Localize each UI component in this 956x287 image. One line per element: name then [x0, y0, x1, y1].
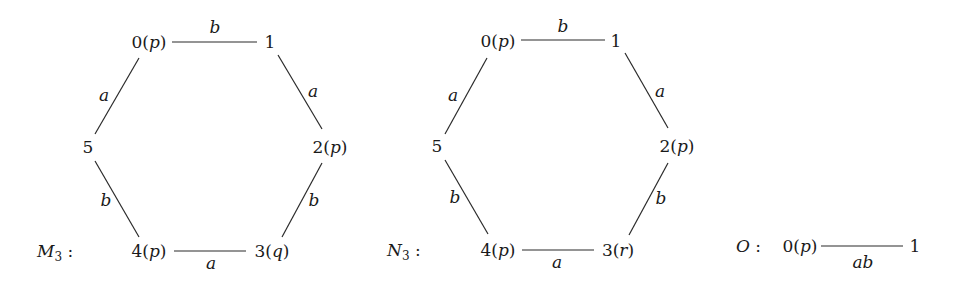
world-2: 2(p) — [660, 136, 695, 156]
diagram-o: ab 0(p) 1 O : — [736, 236, 920, 272]
edge-label-0-1: b — [210, 17, 221, 37]
edge-label-2-3: b — [656, 188, 667, 208]
world-4: 4(p) — [132, 241, 167, 261]
model-label-o: O : — [736, 236, 761, 256]
edge-label-4-5: b — [101, 190, 112, 210]
world-1: 1 — [611, 31, 622, 51]
world-3: 3(r) — [602, 240, 634, 260]
world-0: 0(p) — [783, 236, 818, 256]
model-label-m3: M3 : — [36, 241, 73, 264]
edge-label-3-4: a — [552, 252, 562, 272]
world-5: 5 — [83, 137, 94, 157]
model-label-n3: N3 : — [386, 240, 421, 263]
world-3: 3(q) — [255, 241, 290, 261]
world-1: 1 — [265, 32, 276, 52]
world-2: 2(p) — [313, 137, 348, 157]
edge-label-0-1: b — [558, 16, 569, 36]
diagram-n3: b a b a b a 0(p) 1 2(p) 3(r) 4(p) 5 N3 : — [386, 16, 695, 272]
edge-label-1-2: a — [308, 81, 318, 101]
edge-label-5-0: a — [448, 85, 458, 105]
kripke-models-figure: b a b a b a 0(p) 1 2(p) 3(q) 4(p) 5 M3 :… — [0, 0, 956, 287]
edge-label-5-0: a — [99, 85, 109, 105]
edge-label-0-1: ab — [852, 252, 873, 272]
world-1: 1 — [910, 236, 921, 256]
world-5: 5 — [432, 136, 443, 156]
world-0: 0(p) — [481, 31, 516, 51]
diagram-m3: b a b a b a 0(p) 1 2(p) 3(q) 4(p) 5 M3 : — [36, 17, 348, 273]
edge-label-1-2: a — [655, 81, 665, 101]
world-0: 0(p) — [132, 32, 167, 52]
edge-label-3-4: a — [206, 253, 216, 273]
world-4: 4(p) — [481, 240, 516, 260]
edge-label-2-3: b — [309, 190, 320, 210]
edge-label-4-5: b — [450, 187, 461, 207]
